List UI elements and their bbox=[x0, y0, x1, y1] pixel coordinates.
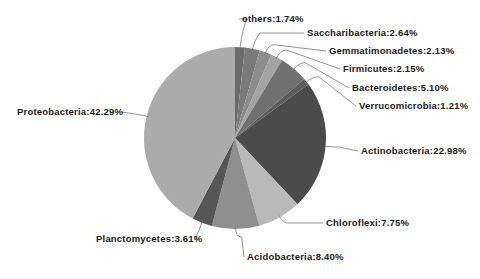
slice-label-gemmatimonadetes: Gemmatimonadetes:2.13% bbox=[329, 45, 454, 56]
slice-label-saccharibacteria: Saccharibacteria:2.64% bbox=[307, 27, 418, 38]
leader-line bbox=[236, 227, 244, 257]
pie-chart-svg bbox=[0, 0, 480, 279]
slice-label-actinobacteria: Actinobacteria:22.98% bbox=[361, 145, 467, 156]
slice-label-bacteroidetes: Bacteroidetes:5.10% bbox=[352, 82, 449, 93]
leader-line bbox=[279, 216, 323, 224]
slice-label-chloroflexi: Chloroflexi:7.75% bbox=[326, 217, 409, 228]
leader-line bbox=[265, 45, 326, 55]
slice-label-acidobacteria: Acidobacteria:8.40% bbox=[247, 251, 344, 262]
leader-line bbox=[252, 33, 304, 51]
leader-line bbox=[324, 146, 358, 151]
slice-label-proteobacteria: Proteobacteria:42.29% bbox=[17, 106, 123, 117]
slice-label-planctomycetes: Planctomycetes:3.61% bbox=[96, 233, 202, 244]
slice-label-others: others:1.74% bbox=[242, 13, 304, 24]
slice-label-verrucomicrobia: Verrucomicrobia:1.21% bbox=[359, 100, 468, 111]
leader-line bbox=[121, 112, 148, 117]
slice-label-firmicutes: Firmicutes:2.15% bbox=[343, 63, 424, 74]
pie-chart: others:1.74%Saccharibacteria:2.64%Gemmat… bbox=[0, 0, 480, 279]
